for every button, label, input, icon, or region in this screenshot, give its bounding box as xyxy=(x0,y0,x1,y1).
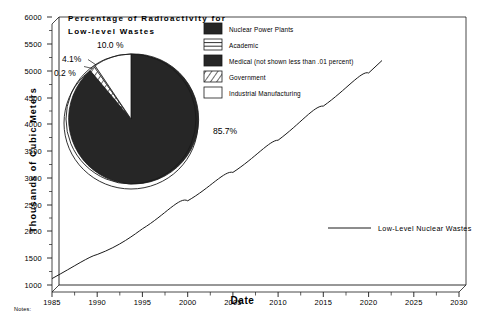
pie-slice-nuclear-power-plants xyxy=(69,54,199,184)
legend-swatch-nuclear-power-plants xyxy=(204,23,222,34)
pie-label-industrial-manufacturing: 10.0 % xyxy=(97,40,123,50)
legend-label-medical: Medical (not shown less than .01 percent… xyxy=(229,58,353,65)
notes-label: Notes: xyxy=(14,306,31,312)
legend-label-academic: Academic xyxy=(229,42,258,49)
legend-swatch-academic xyxy=(204,39,222,50)
legend-swatches xyxy=(203,22,231,104)
legend-swatch-medical xyxy=(204,55,222,66)
y-tick-label: 1000 xyxy=(0,281,42,290)
pie-label-academic: 0.2 % xyxy=(54,68,76,78)
legend-label-industrial-manufacturing: Industrial Manufacturing xyxy=(229,90,301,97)
y-tick-label: 1500 xyxy=(0,254,42,263)
x-axis-title: Date xyxy=(0,295,485,306)
legend-label-nuclear-power-plants: Nuclear Power Plants xyxy=(229,26,293,33)
inset-title-line2: Low-level Wastes xyxy=(68,27,155,36)
pie-label-nuclear-power-plants: 85.7% xyxy=(213,126,237,136)
legend-label-government: Government xyxy=(229,74,266,81)
y-tick-label: 5500 xyxy=(0,40,42,49)
y-axis-title: Thousands of Cubic Meters xyxy=(28,75,38,245)
pie-label-government: 4.1% xyxy=(62,54,81,64)
legend-swatch-government xyxy=(204,71,222,82)
legend-swatch-industrial-manufacturing xyxy=(204,87,222,98)
chart-figure: 6000 5500 5000 4500 4000 3500 3000 2500 … xyxy=(0,0,485,318)
series-legend-label: Low-Level Nuclear Wastes xyxy=(378,224,472,233)
y-tick-label: 6000 xyxy=(0,13,42,22)
